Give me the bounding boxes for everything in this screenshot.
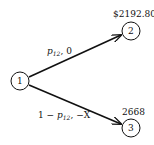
- payoff: 0: [66, 46, 72, 56]
- prefix: 1 −: [38, 110, 57, 120]
- sep: ,: [60, 46, 63, 56]
- node-1-label: 1: [17, 77, 23, 86]
- sep: ,: [70, 110, 73, 120]
- node-2-label: 2: [128, 27, 134, 36]
- edge-1-2-label: p12, 0: [47, 47, 72, 57]
- edge-1-2: [29, 35, 121, 77]
- payoff: −X: [76, 110, 90, 120]
- node-3-label: 3: [128, 124, 134, 133]
- node-2-value: $2192.80: [113, 10, 154, 19]
- edge-1-3-label: 1 − p12, −X: [38, 111, 90, 121]
- node-3-value: 2668: [122, 108, 145, 117]
